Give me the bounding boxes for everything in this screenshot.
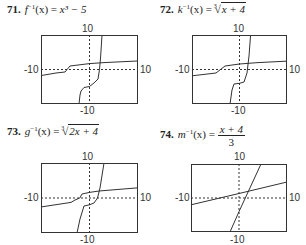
- tick-label-right: 10: [140, 65, 151, 75]
- tick-label-top: 10: [233, 24, 244, 34]
- cube-root-symbol: 3√x + 4: [215, 3, 246, 16]
- problem-73-title: 73.g−1(x) = 3√2x + 4: [7, 125, 99, 138]
- problem-72-title: 72.k−1(x) = 3√x + 4: [160, 3, 246, 16]
- graph-73: [41, 163, 138, 233]
- problem-74-title: 74.m−1(x) = x + 43: [160, 123, 245, 148]
- problem-number: 71.: [7, 3, 21, 15]
- tick-label-bottom: -10: [80, 235, 94, 245]
- equation-rhs: x + 4: [221, 2, 246, 15]
- graph-74: [191, 164, 287, 232]
- problem-number: 72.: [160, 3, 174, 15]
- fraction-numerator: x + 4: [218, 123, 245, 136]
- tick-label-left: -10: [175, 193, 189, 203]
- fraction: x + 43: [218, 123, 245, 148]
- problem-number: 73.: [7, 125, 21, 137]
- equation-rhs: 2x + 4: [68, 124, 99, 137]
- cube-root-symbol: 3√2x + 4: [62, 125, 99, 138]
- tick-label-left: -10: [175, 65, 189, 75]
- tick-label-right: 10: [289, 193, 300, 203]
- tick-label-right: 10: [289, 65, 300, 75]
- fraction-denominator: 3: [218, 136, 245, 148]
- equation-rhs: x³ − 5: [60, 3, 87, 15]
- tick-label-bottom: -10: [230, 235, 244, 245]
- tick-label-right: 10: [140, 193, 151, 203]
- problem-number: 74.: [160, 128, 174, 140]
- graph-72: [192, 35, 287, 104]
- tick-label-bottom: -10: [80, 106, 94, 116]
- tick-label-left: -10: [24, 65, 38, 75]
- problem-71-title: 71.f−1(x) = x³ − 5: [7, 3, 86, 16]
- graph-71: [41, 35, 138, 104]
- tick-label-top: 10: [82, 152, 93, 162]
- tick-label-bottom: -10: [231, 106, 245, 116]
- tick-label-top: 10: [82, 24, 93, 34]
- tick-label-top: 10: [234, 152, 245, 162]
- tick-label-left: -10: [24, 193, 38, 203]
